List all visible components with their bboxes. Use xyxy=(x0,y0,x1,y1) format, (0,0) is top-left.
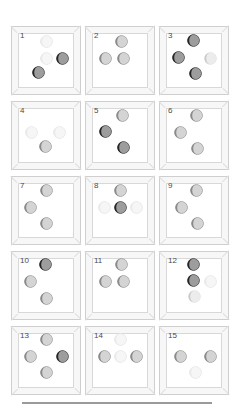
moon-phase-icon[interactable] xyxy=(114,333,127,346)
grid-cell-4[interactable]: 4 xyxy=(10,97,83,172)
cell-number-label: 9 xyxy=(168,181,172,190)
moon-phase-grid-page: { "page": { "title": "Moon Phase Cell Gr… xyxy=(0,0,241,411)
moon-phase-icon[interactable] xyxy=(174,350,187,363)
moon-phase-icon[interactable] xyxy=(187,34,200,47)
moon-phase-icon[interactable] xyxy=(99,52,112,65)
cell-number-label: 14 xyxy=(94,331,103,340)
cell-number-label: 15 xyxy=(168,331,177,340)
moon-phase-icon[interactable] xyxy=(24,201,37,214)
moon-phase-icon[interactable] xyxy=(39,258,52,271)
moon-phase-icon[interactable] xyxy=(115,258,128,271)
grid-cell-15[interactable]: 15 xyxy=(158,322,231,397)
moon-phase-icon[interactable] xyxy=(187,258,200,271)
cell-number-label: 8 xyxy=(94,181,98,190)
grid-cell-9[interactable]: 9 xyxy=(158,172,231,247)
cell-number-label: 13 xyxy=(20,331,29,340)
cell-number-label: 2 xyxy=(94,31,98,40)
moon-phase-icon[interactable] xyxy=(40,52,53,65)
grid-cell-5[interactable]: 5 xyxy=(84,97,157,172)
cell-number-label: 7 xyxy=(20,181,24,190)
moon-phase-icon[interactable] xyxy=(99,125,112,138)
moon-phase-icon[interactable] xyxy=(98,350,111,363)
moon-phase-icon[interactable] xyxy=(40,333,53,346)
moon-phase-icon[interactable] xyxy=(53,126,66,139)
moon-phase-icon[interactable] xyxy=(117,52,130,65)
moon-phase-icon[interactable] xyxy=(99,275,112,288)
moon-phase-icon[interactable] xyxy=(191,217,204,230)
moon-phase-icon[interactable] xyxy=(114,350,127,363)
cell-number-label: 10 xyxy=(20,256,29,265)
moon-phase-icon[interactable] xyxy=(189,366,202,379)
moon-phase-icon[interactable] xyxy=(56,52,69,65)
moon-phase-icon[interactable] xyxy=(116,109,129,122)
cell-number-label: 3 xyxy=(168,31,172,40)
moon-phase-icon[interactable] xyxy=(40,292,53,305)
moon-phase-icon[interactable] xyxy=(56,350,69,363)
grid-cell-3[interactable]: 3 xyxy=(158,22,231,97)
grid-cell-12[interactable]: 12 xyxy=(158,247,231,322)
moon-phase-icon[interactable] xyxy=(190,109,203,122)
moon-phase-icon[interactable] xyxy=(40,184,53,197)
cell-number-label: 11 xyxy=(94,256,102,265)
moon-phase-icon[interactable] xyxy=(24,350,37,363)
grid-cell-6[interactable]: 6 xyxy=(158,97,231,172)
grid-cell-11[interactable]: 11 xyxy=(84,247,157,322)
bottom-divider-rule xyxy=(22,402,212,404)
moon-phase-icon[interactable] xyxy=(25,126,38,139)
moon-phase-icon[interactable] xyxy=(204,350,217,363)
grid-cell-10[interactable]: 10 xyxy=(10,247,83,322)
moon-phase-icon[interactable] xyxy=(204,275,217,288)
cell-number-label: 12 xyxy=(168,256,177,265)
moon-phase-icon[interactable] xyxy=(130,350,143,363)
moon-phase-icon[interactable] xyxy=(187,274,200,287)
moon-phase-icon[interactable] xyxy=(175,201,188,214)
moon-phase-icon[interactable] xyxy=(189,67,202,80)
moon-phase-icon[interactable] xyxy=(174,126,187,139)
moon-phase-icon[interactable] xyxy=(40,35,53,48)
moon-phase-icon[interactable] xyxy=(32,66,45,79)
moon-phase-icon[interactable] xyxy=(114,184,127,197)
moon-phase-icon[interactable] xyxy=(98,201,111,214)
grid-cell-14[interactable]: 14 xyxy=(84,322,157,397)
moon-phase-icon[interactable] xyxy=(117,141,130,154)
grid-cell-1[interactable]: 1 xyxy=(10,22,83,97)
cell-number-label: 4 xyxy=(20,106,24,115)
moon-phase-icon[interactable] xyxy=(24,275,37,288)
grid-cell-7[interactable]: 7 xyxy=(10,172,83,247)
moon-phase-icon[interactable] xyxy=(40,366,53,379)
grid-cell-8[interactable]: 8 xyxy=(84,172,157,247)
grid-cell-2[interactable]: 2 xyxy=(84,22,157,97)
cell-number-label: 1 xyxy=(20,31,24,40)
moon-phase-icon[interactable] xyxy=(204,52,217,65)
moon-phase-icon[interactable] xyxy=(191,142,204,155)
moon-phase-icon[interactable] xyxy=(115,35,128,48)
moon-phase-icon[interactable] xyxy=(188,290,201,303)
moon-phase-icon[interactable] xyxy=(190,184,203,197)
cell-number-label: 6 xyxy=(168,106,172,115)
moon-phase-icon[interactable] xyxy=(117,275,130,288)
moon-phase-icon[interactable] xyxy=(172,51,185,64)
moon-phase-icon[interactable] xyxy=(130,201,143,214)
grid-cell-13[interactable]: 13 xyxy=(10,322,83,397)
moon-phase-icon[interactable] xyxy=(40,217,53,230)
cell-grid: 123456789101112131415 xyxy=(0,22,241,397)
cell-number-label: 5 xyxy=(94,106,98,115)
moon-phase-icon[interactable] xyxy=(114,201,127,214)
moon-phase-icon[interactable] xyxy=(39,140,52,153)
